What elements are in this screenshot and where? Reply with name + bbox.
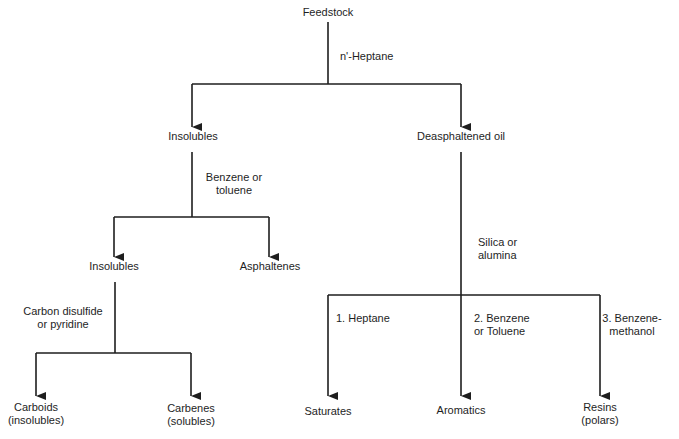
edge-label-heptane: 1. Heptane [336, 312, 390, 325]
silica-alumina-line-1: Silica or [478, 236, 517, 249]
benzene-methanol-line-1: 3. Benzene- [602, 312, 661, 325]
edge-label-benzene-toluene: Benzene or toluene [206, 171, 262, 197]
benzene-methanol-line-2: methanol [602, 325, 661, 338]
node-deasphaltened-oil: Deasphaltened oil [417, 130, 505, 143]
node-insolubles-2: Insolubles [89, 260, 139, 273]
edge-label-carbon-disulfide: Carbon disulfide or pyridine [23, 305, 103, 331]
carboids-line-2: (insolubles) [8, 414, 64, 427]
node-saturates: Saturates [304, 405, 351, 418]
edge-label-silica-alumina: Silica or alumina [478, 236, 517, 262]
silica-alumina-line-2: alumina [478, 249, 517, 262]
fractionation-diagram: Feedstock Insolubles Deasphaltened oil I… [0, 0, 679, 439]
edge-label-benzene-or-toluene: 2. Benzene or Toluene [474, 312, 530, 338]
node-aromatics: Aromatics [437, 404, 486, 417]
benzene-or-toluene-line-2: or Toluene [474, 325, 530, 338]
node-resins: Resins (polars) [581, 401, 618, 427]
benzene-toluene-line-1: Benzene or [206, 171, 262, 184]
edge-label-benzene-methanol: 3. Benzene- methanol [602, 312, 661, 338]
connector-lines [0, 0, 679, 439]
carbon-disulfide-line-1: Carbon disulfide [23, 305, 103, 318]
node-carbenes: Carbenes (solubles) [167, 402, 215, 428]
carboids-line-1: Carboids [8, 401, 64, 414]
node-insolubles: Insolubles [168, 130, 218, 143]
carbon-disulfide-line-2: or pyridine [23, 318, 103, 331]
benzene-or-toluene-line-1: 2. Benzene [474, 312, 530, 325]
carbenes-line-1: Carbenes [167, 402, 215, 415]
benzene-toluene-line-2: toluene [206, 184, 262, 197]
node-carboids: Carboids (insolubles) [8, 401, 64, 427]
node-feedstock: Feedstock [303, 6, 354, 19]
node-asphaltenes: Asphaltenes [240, 260, 301, 273]
edge-label-n-heptane: n'-Heptane [340, 50, 393, 63]
resins-line-1: Resins [581, 401, 618, 414]
resins-line-2: (polars) [581, 414, 618, 427]
carbenes-line-2: (solubles) [167, 415, 215, 428]
